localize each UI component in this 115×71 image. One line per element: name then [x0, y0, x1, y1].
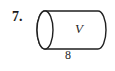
length-dimension-label: 8 — [61, 49, 75, 62]
volume-variable-label: V — [72, 22, 86, 36]
cylinder-diagram — [0, 0, 115, 71]
geometry-figure: 7. V 8 — [0, 0, 115, 71]
cylinder-front-ellipse — [37, 11, 53, 49]
